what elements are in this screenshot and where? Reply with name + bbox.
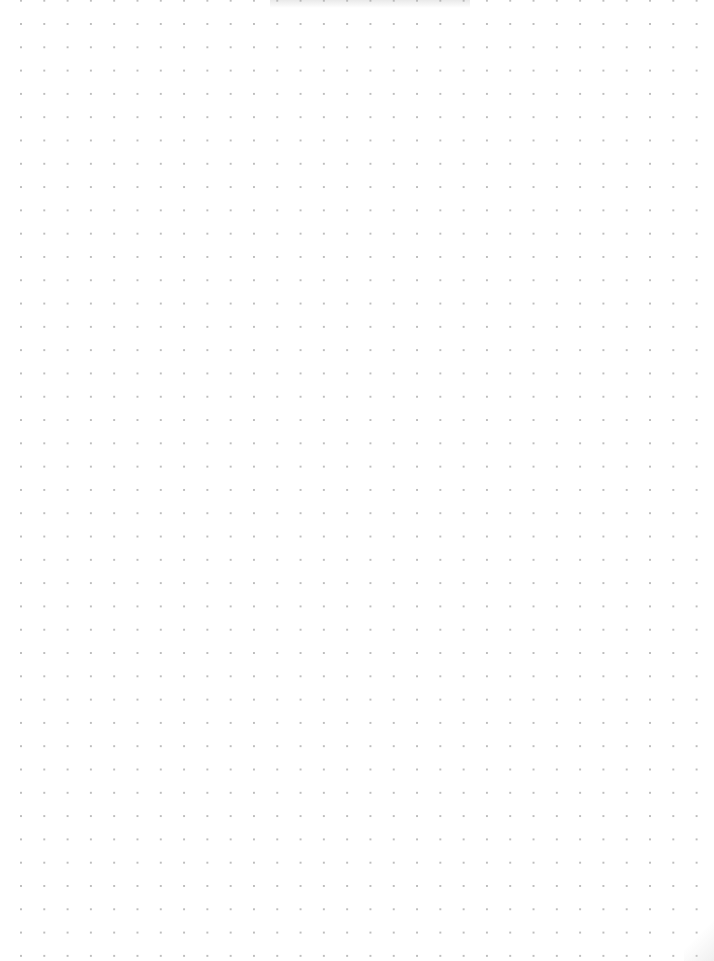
top-edge-shadow (270, 0, 470, 8)
dot-grid-paper (0, 0, 714, 961)
corner-shadow (684, 921, 714, 961)
dot-grid (0, 0, 714, 961)
